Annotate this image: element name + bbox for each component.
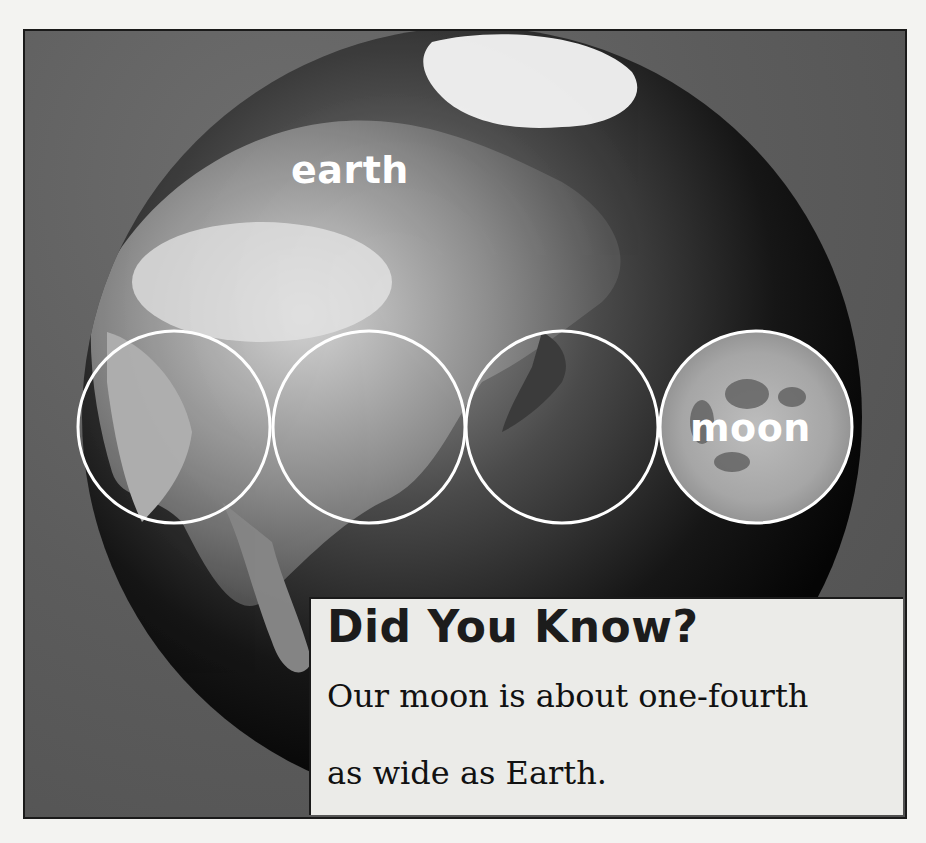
info-box-text-line-2: as wide as Earth.	[327, 754, 607, 792]
moon-label: moon	[690, 406, 811, 450]
info-box-title: Did You Know?	[327, 601, 698, 652]
info-box-text-line-1: Our moon is about one-fourth	[327, 677, 808, 715]
did-you-know-box: Did You Know? Our moon is about one-four…	[309, 597, 903, 815]
earth-label: earth	[291, 148, 409, 192]
textbook-page: earth moon Did You Know? Our moon is abo…	[0, 0, 926, 843]
